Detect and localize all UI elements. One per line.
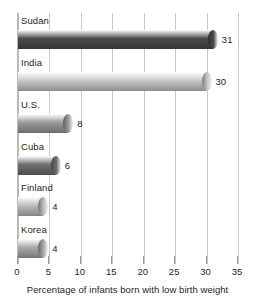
x-tick-label: 0 — [14, 266, 19, 277]
category-label: U.S. — [21, 98, 40, 111]
category-label: Cuba — [21, 140, 44, 153]
value-label: 6 — [65, 157, 70, 174]
bar-row: U.S.8 — [18, 97, 237, 139]
x-axis: 05101520253035 — [17, 264, 237, 284]
x-tick-mark — [143, 256, 144, 264]
plot-area: Sudan31India30U.S.8Cuba6Finland4Korea4 — [17, 13, 237, 264]
gridline — [238, 13, 239, 264]
x-tick-label: 15 — [106, 266, 117, 277]
category-label: Sudan — [21, 14, 49, 27]
bar — [18, 239, 48, 258]
bar-end-cap — [51, 156, 61, 175]
bar-row: Sudan31 — [18, 13, 237, 55]
x-tick-mark — [111, 256, 112, 264]
x-tick-mark — [206, 256, 207, 264]
bar-end-cap — [202, 72, 212, 91]
x-tick-label: 30 — [200, 266, 211, 277]
x-tick-mark — [80, 256, 81, 264]
bar — [18, 30, 218, 49]
x-tick-mark — [174, 256, 175, 264]
bar-end-cap — [38, 197, 48, 216]
category-label: India — [21, 56, 42, 69]
x-tick-label: 25 — [169, 266, 180, 277]
x-tick-mark — [237, 256, 238, 264]
category-label: Finland — [21, 181, 53, 194]
value-label: 30 — [216, 73, 227, 90]
bar-row: Korea4 — [18, 222, 237, 264]
bar — [18, 197, 48, 216]
bar — [18, 72, 212, 91]
bar — [18, 114, 73, 133]
x-tick-label: 10 — [75, 266, 86, 277]
x-axis-caption: Percentage of infants born with low birt… — [0, 284, 255, 295]
category-label: Korea — [21, 223, 47, 236]
value-label: 8 — [77, 115, 82, 132]
x-tick-mark — [48, 256, 49, 264]
bar-row: Cuba6 — [18, 139, 237, 181]
bar-rows: Sudan31India30U.S.8Cuba6Finland4Korea4 — [18, 13, 237, 264]
x-tick-mark — [17, 256, 18, 264]
bar-end-cap — [38, 239, 48, 258]
bar-row: India30 — [18, 55, 237, 97]
bar-chart: Sudan31India30U.S.8Cuba6Finland4Korea4 0… — [0, 0, 255, 302]
value-label: 4 — [52, 240, 57, 257]
bar-body — [18, 114, 68, 133]
bar — [18, 156, 61, 175]
bar-body — [18, 72, 207, 91]
x-tick-label: 35 — [232, 266, 243, 277]
bar-body — [18, 30, 213, 49]
bar-row: Finland4 — [18, 180, 237, 222]
x-tick-label: 20 — [137, 266, 148, 277]
value-label: 4 — [52, 198, 57, 215]
x-tick-label: 5 — [46, 266, 51, 277]
value-label: 31 — [222, 31, 233, 48]
bar-end-cap — [63, 114, 73, 133]
bar-end-cap — [208, 30, 218, 49]
